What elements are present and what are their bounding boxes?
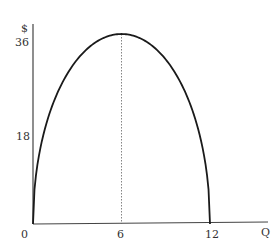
x-tick-12: 12 — [205, 229, 219, 240]
x-axis-label: Q — [261, 227, 270, 238]
origin-label: 0 — [21, 229, 28, 240]
x-tick-6: 6 — [117, 229, 124, 240]
y-axis-label: $ — [21, 23, 28, 34]
x-axis — [33, 222, 268, 224]
chart-canvas — [0, 0, 278, 247]
y-tick-36: 36 — [15, 37, 29, 48]
y-tick-18: 18 — [16, 131, 30, 142]
